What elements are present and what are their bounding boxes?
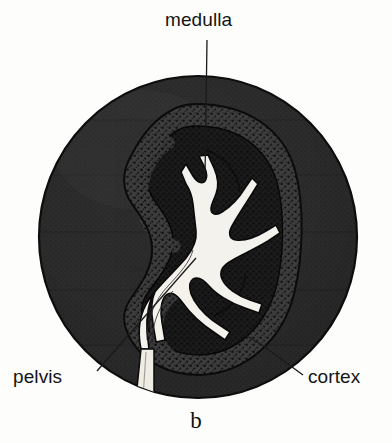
- label-cortex: cortex: [308, 366, 360, 388]
- label-medulla: medulla: [165, 9, 232, 31]
- label-pelvis: pelvis: [13, 366, 62, 388]
- figure-panel-label: b: [0, 408, 392, 434]
- figure-container: medulla pelvis cortex b: [0, 0, 392, 443]
